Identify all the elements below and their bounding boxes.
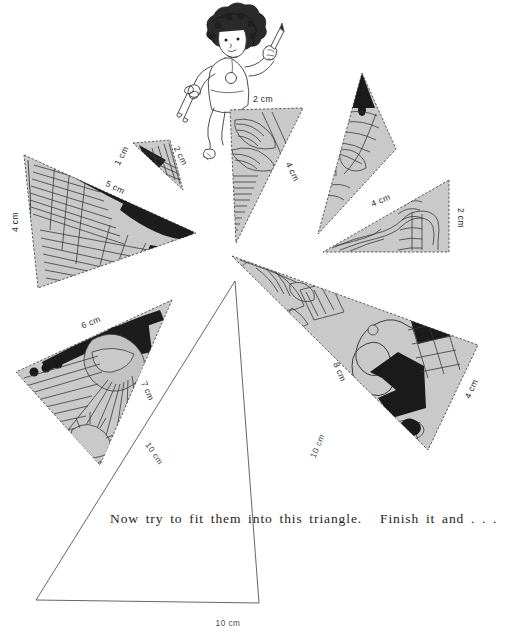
- label-right-vertical: 2 cm: [456, 208, 466, 228]
- worksheet-illustration: 1 cm 2 cm 4 cm 5 cm 2 cm 4 cm 4 cm 2 cm …: [0, 0, 525, 639]
- label-outline-right: 10 cm: [309, 433, 327, 459]
- label-bottomright-right: 4 cm: [462, 377, 480, 400]
- label-center-right: 4 cm: [284, 160, 302, 183]
- worksheet-page: 1 cm 2 cm 4 cm 5 cm 2 cm 4 cm 4 cm 2 cm …: [0, 0, 525, 639]
- triangle-piece-upper-right-narrow[interactable]: [318, 73, 396, 234]
- label-tiny-a: 1 cm: [112, 144, 130, 167]
- label-right-hyp: 4 cm: [370, 192, 393, 209]
- label-left-vertical: 4 cm: [10, 212, 20, 232]
- label-center-top: 2 cm: [253, 94, 273, 104]
- eye-right: [237, 38, 240, 41]
- label-outline-left: 10 cm: [143, 441, 164, 467]
- pendant: [226, 73, 237, 84]
- pencil: [271, 28, 284, 49]
- eye-left: [225, 39, 228, 42]
- label-bottomleft-right: 7 cm: [139, 380, 156, 403]
- label-outline-base: 10 cm: [216, 619, 241, 628]
- label-bottomleft-top: 6 cm: [80, 314, 103, 331]
- triangle-piece-bottom-right[interactable]: [232, 256, 478, 450]
